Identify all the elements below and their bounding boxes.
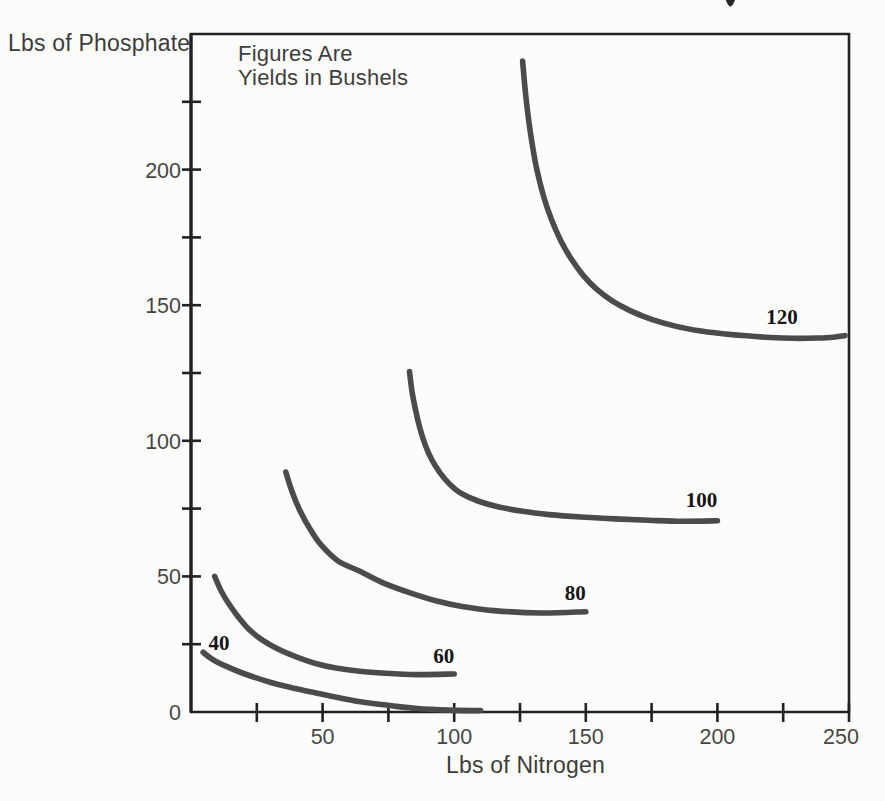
- curve-label-120: 120: [766, 305, 798, 329]
- y-tick-label-100: 100: [145, 430, 181, 454]
- x-tick-label-200: 200: [699, 725, 735, 749]
- y-tick-label-0: 0: [169, 701, 181, 725]
- isoquant-curve-100: [410, 372, 718, 522]
- y-tick-label-200: 200: [145, 159, 181, 183]
- isoquant-curve-80: [286, 472, 586, 613]
- isoquant-curve-60: [215, 576, 455, 674]
- x-tick-label-150: 150: [568, 725, 604, 749]
- isoquant-chart-svg: 50100150200250050100150200406080100120: [0, 0, 885, 801]
- y-tick-label-150: 150: [145, 294, 181, 318]
- curve-label-60: 60: [433, 644, 454, 668]
- x-axis-title: Lbs of Nitrogen: [446, 752, 605, 779]
- isoquant-curve-120: [523, 61, 846, 338]
- page-edge-ink-fragment: [726, 0, 735, 7]
- textbook-figure: 50100150200250050100150200406080100120 L…: [0, 0, 885, 801]
- curve-label-40: 40: [208, 631, 229, 655]
- x-tick-label-250: 250: [823, 725, 859, 749]
- y-axis-title: Lbs of Phosphate: [8, 30, 190, 57]
- x-tick-label-50: 50: [311, 725, 335, 749]
- curve-label-100: 100: [686, 488, 718, 512]
- figure-note-line1: Figures Are: [238, 42, 408, 66]
- y-tick-label-50: 50: [157, 565, 181, 589]
- figure-note: Figures Are Yields in Bushels: [238, 42, 408, 90]
- curve-label-80: 80: [565, 581, 586, 605]
- figure-note-line2: Yields in Bushels: [238, 66, 408, 90]
- x-tick-label-100: 100: [436, 725, 472, 749]
